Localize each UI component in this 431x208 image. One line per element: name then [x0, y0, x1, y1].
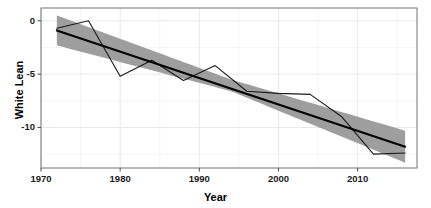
y-tick-label: -10 — [1, 121, 35, 132]
x-tick-label: 2000 — [258, 173, 298, 184]
x-tick-label: 1990 — [179, 173, 219, 184]
y-tick-label: -5 — [1, 68, 35, 79]
x-tick-label: 1970 — [21, 173, 61, 184]
x-tick-label: 1980 — [100, 173, 140, 184]
x-tick-label: 2010 — [338, 173, 378, 184]
x-axis-title: Year — [0, 191, 431, 203]
y-tick-label: 0 — [1, 15, 35, 26]
chart-figure: White Lean Year 0-5-10197019801990200020… — [0, 0, 431, 208]
